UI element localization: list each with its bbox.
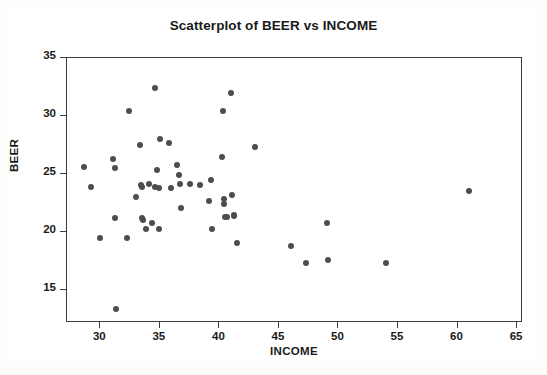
x-tick-label: 35 (139, 330, 179, 342)
y-tick-label: 20 (18, 223, 56, 235)
data-point (166, 140, 172, 146)
x-tick-mark (337, 322, 338, 328)
data-point (209, 226, 215, 232)
data-point (156, 226, 162, 232)
data-point (229, 192, 235, 198)
x-tick-mark (99, 322, 100, 328)
data-point (112, 165, 118, 171)
x-tick-mark (516, 322, 517, 328)
scatterplot-figure: Scatterplot of BEER vs INCOME 1520253035… (0, 0, 547, 375)
data-point (220, 108, 226, 114)
data-point (252, 144, 258, 150)
y-tick-mark (60, 57, 66, 58)
data-point (152, 85, 158, 91)
x-tick-mark (278, 322, 279, 328)
x-tick-label: 60 (437, 330, 477, 342)
data-point (234, 240, 240, 246)
data-point (325, 257, 331, 263)
data-point (140, 217, 146, 223)
data-point (112, 215, 118, 221)
data-point (219, 154, 225, 160)
data-point (224, 214, 230, 220)
y-tick-label: 15 (18, 281, 56, 293)
y-tick-label: 30 (18, 107, 56, 119)
data-point (174, 162, 180, 168)
data-point (288, 243, 294, 249)
x-tick-mark (457, 322, 458, 328)
x-tick-label: 40 (198, 330, 238, 342)
data-point (324, 220, 330, 226)
data-point (178, 205, 184, 211)
data-points-layer (67, 58, 521, 321)
data-point (177, 181, 183, 187)
data-point (139, 184, 145, 190)
data-point (228, 90, 234, 96)
data-point (88, 184, 94, 190)
data-point (97, 235, 103, 241)
data-point (154, 167, 160, 173)
data-point (137, 142, 143, 148)
data-point (110, 156, 116, 162)
y-tick-mark (60, 289, 66, 290)
x-tick-label: 65 (496, 330, 536, 342)
data-point (133, 194, 139, 200)
data-point (206, 198, 212, 204)
x-tick-mark (397, 322, 398, 328)
data-point (81, 164, 87, 170)
y-tick-mark (60, 231, 66, 232)
data-point (221, 201, 227, 207)
x-tick-label: 45 (258, 330, 298, 342)
data-point (466, 188, 472, 194)
x-tick-label: 50 (317, 330, 357, 342)
y-tick-mark (60, 173, 66, 174)
x-tick-mark (159, 322, 160, 328)
data-point (149, 220, 155, 226)
data-point (143, 226, 149, 232)
x-axis-label: INCOME (66, 345, 522, 357)
x-tick-label: 30 (79, 330, 119, 342)
y-tick-mark (60, 115, 66, 116)
x-tick-label: 55 (377, 330, 417, 342)
y-axis-label: BEER (8, 139, 20, 172)
data-point (168, 185, 174, 191)
data-point (126, 108, 132, 114)
data-point (197, 182, 203, 188)
y-tick-label: 35 (18, 49, 56, 61)
data-point (208, 177, 214, 183)
data-point (156, 185, 162, 191)
page-title: Scatterplot of BEER vs INCOME (0, 18, 547, 33)
data-point (113, 306, 119, 312)
data-point (124, 235, 130, 241)
data-point (303, 260, 309, 266)
scanned-page: Scatterplot of BEER vs INCOME 1520253035… (0, 0, 547, 375)
data-point (157, 136, 163, 142)
data-point (231, 213, 237, 219)
x-tick-mark (218, 322, 219, 328)
data-point (176, 172, 182, 178)
y-tick-label: 25 (18, 165, 56, 177)
data-point (383, 260, 389, 266)
data-point (187, 181, 193, 187)
plot-area (66, 57, 522, 322)
